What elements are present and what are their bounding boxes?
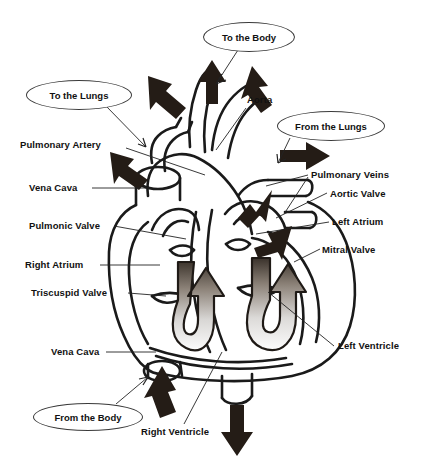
right-ventricle-flow-arrow bbox=[173, 262, 224, 350]
label-vena-cava-upper: Vena Cava bbox=[29, 183, 77, 193]
label-left-atrium: Left Atrium bbox=[332, 217, 383, 227]
label-pulmonary-artery: Pulmonary Artery bbox=[20, 140, 101, 150]
callout-from-the-body: From the Body bbox=[33, 403, 143, 431]
callout-to-the-body: To the Body bbox=[203, 22, 295, 52]
leader-to-the-lungs bbox=[106, 106, 146, 147]
leader-right-ventricle bbox=[184, 352, 222, 424]
label-right-ventricle: Right Ventricle bbox=[141, 427, 209, 437]
to-lungs-arrow-right bbox=[241, 66, 272, 113]
to-lungs-arrow-left bbox=[148, 76, 186, 119]
label-left-ventricle: Left Ventricle bbox=[338, 341, 399, 351]
leader-pulmonic-valve bbox=[114, 226, 186, 239]
left-ventricle-flow-arrow bbox=[247, 258, 306, 350]
into-left-atrium-arrow bbox=[238, 190, 272, 228]
leader-from-the-body bbox=[116, 377, 148, 404]
label-pulmonary-veins: Pulmonary Veins bbox=[311, 170, 389, 180]
label-vena-cava-lower: Vena Cava bbox=[51, 347, 99, 357]
label-aortic-valve: Aortic Valve bbox=[330, 189, 386, 199]
heart-diagram: Aorta Pulmonary Artery Vena Cava Pulmoni… bbox=[0, 0, 422, 462]
label-aorta: Aorta bbox=[247, 95, 272, 105]
from-lungs-arrow bbox=[280, 142, 330, 170]
label-pulmonic-valve: Pulmonic Valve bbox=[29, 221, 100, 231]
out-bottom-arrow bbox=[221, 405, 253, 456]
label-triscuspid-valve: Triscuspid Valve bbox=[31, 288, 107, 298]
label-mitral-valve: Mitral Valve bbox=[322, 245, 375, 255]
callout-from-the-lungs: From the Lungs bbox=[277, 111, 385, 141]
callout-to-the-lungs: To the Lungs bbox=[26, 80, 132, 110]
leader-left-atrium bbox=[256, 222, 329, 234]
label-right-atrium: Right Atrium bbox=[25, 260, 83, 270]
heart-illustration bbox=[0, 0, 422, 462]
